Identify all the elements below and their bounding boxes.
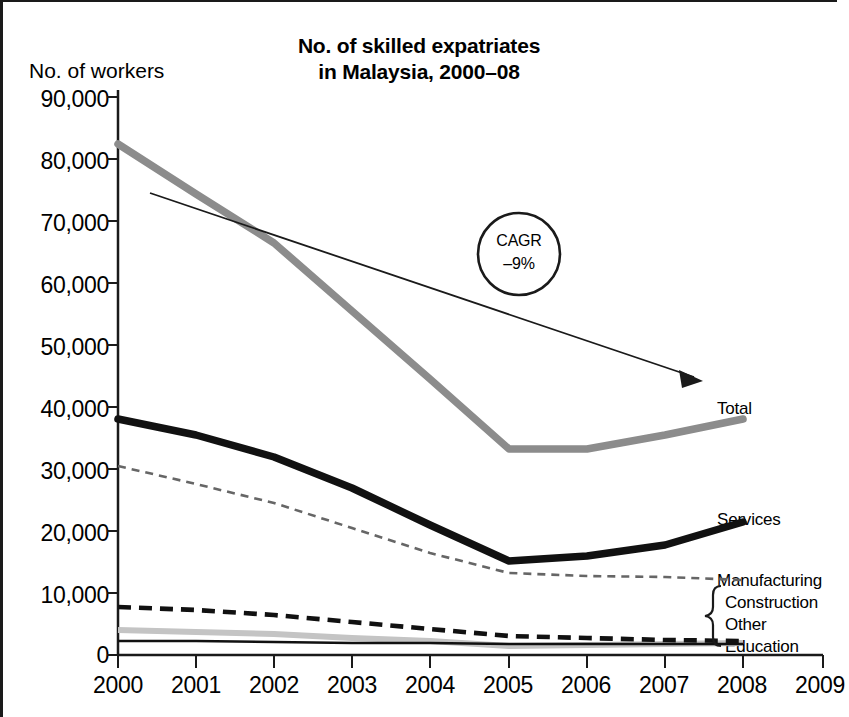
series-line-construction bbox=[118, 607, 743, 641]
x-axis-ticks bbox=[118, 655, 823, 668]
plot-area bbox=[3, 2, 840, 717]
series-group-brace bbox=[705, 586, 721, 646]
trend-arrow-annotation bbox=[150, 193, 703, 388]
series-line-total bbox=[118, 144, 743, 449]
cagr-callout-circle bbox=[478, 213, 560, 295]
axes bbox=[107, 90, 823, 668]
y-axis-ticks bbox=[107, 97, 118, 655]
